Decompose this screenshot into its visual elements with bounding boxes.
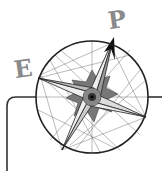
letter-p: P [106, 7, 127, 33]
compass-rose-icon [0, 0, 162, 171]
left-bracket-line [7, 97, 36, 171]
letter-e: E [12, 56, 33, 82]
compass-logo: E P [0, 0, 162, 171]
